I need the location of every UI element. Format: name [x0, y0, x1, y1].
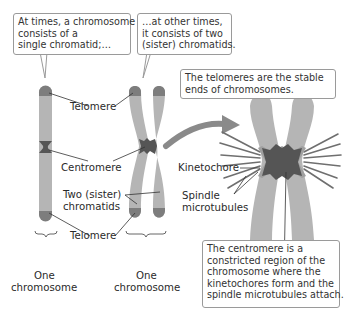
telomere-top-left [39, 86, 52, 97]
label-one-chromosome-right-1: One [136, 270, 157, 282]
label-centromere: Centromere [61, 162, 121, 174]
callout-sister-chromatids: …at other times, it consists of two (sis… [137, 13, 232, 55]
label-one-chromosome-left-1: One [34, 270, 55, 282]
callout-single-chromatid: At times, a chromosome consists of a sin… [13, 13, 131, 55]
label-kinetochore: Kinetochore [178, 162, 239, 174]
label-sister-chromatids-2: chromatids [63, 201, 120, 213]
label-one-chromosome-left-2: chromosome [11, 282, 77, 294]
single-chromatid-chromosome [39, 86, 52, 222]
label-telomere-top: Telomere [70, 101, 116, 113]
label-spindle-1: Spindle [182, 190, 220, 202]
label-one-chromosome-right-2: chromosome [114, 282, 180, 294]
zoom-arrow [166, 124, 225, 146]
centromere-middle [139, 138, 157, 154]
telomere-bottom-left [39, 211, 52, 222]
callout-centromere: The centromere is a constricted region o… [202, 240, 340, 308]
callout-telomeres: The telomeres are the stable ends of chr… [180, 69, 336, 99]
label-telomere-bottom: Telomere [70, 230, 116, 242]
label-spindle-2: microtubules [182, 202, 248, 214]
label-sister-chromatids-1: Two (sister) [63, 189, 121, 201]
